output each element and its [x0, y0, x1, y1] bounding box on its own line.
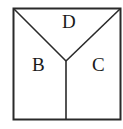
region-label-left: B: [32, 55, 45, 74]
region-label-right: C: [92, 55, 105, 74]
region-label-top: D: [62, 12, 76, 31]
